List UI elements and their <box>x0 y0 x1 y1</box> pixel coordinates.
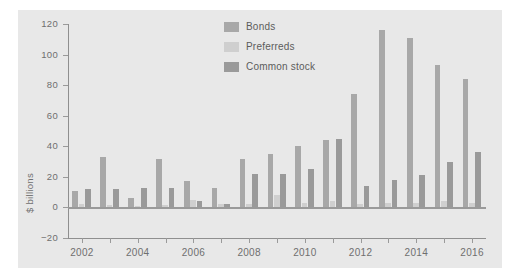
bar-common-stock-2012 <box>364 186 370 207</box>
x-axis-tick <box>305 238 306 243</box>
chart-panel: $ billions −20020406080100120 2002200420… <box>18 10 502 268</box>
x-axis-tick <box>361 238 362 243</box>
y-axis-tick-label: 100 <box>18 49 58 60</box>
legend-item-common-stock[interactable]: Common stock <box>224 58 315 75</box>
bar-common-stock-2006 <box>197 201 203 207</box>
bar-bonds-2012 <box>351 94 357 207</box>
legend-swatch-bonds <box>224 22 239 32</box>
legend-item-label: Bonds <box>246 21 275 32</box>
bar-bonds-2011 <box>323 140 329 207</box>
x-axis-tick <box>333 238 334 243</box>
bar-common-stock-2016 <box>475 152 481 207</box>
chart-legend: BondsPreferredsCommon stock <box>224 18 315 78</box>
bar-preferreds-2005 <box>162 205 168 207</box>
x-axis-tick-label: 2012 <box>349 247 372 258</box>
y-axis-tick-label: 60 <box>18 110 58 121</box>
legend-item-preferreds[interactable]: Preferreds <box>224 38 315 55</box>
legend-swatch-preferreds <box>224 42 239 52</box>
bar-bonds-2009 <box>268 154 274 208</box>
zero-baseline <box>68 207 486 209</box>
bar-common-stock-2015 <box>447 162 453 208</box>
x-axis-tick <box>166 238 167 243</box>
legend-swatch-common-stock <box>224 62 239 72</box>
bar-common-stock-2004 <box>141 188 147 208</box>
bar-bonds-2004 <box>128 198 134 207</box>
y-axis-tick-label: −20 <box>18 232 58 243</box>
y-axis-tick-label: 80 <box>18 79 58 90</box>
legend-item-label: Preferreds <box>246 41 295 52</box>
x-axis-tick <box>110 238 111 243</box>
bar-bonds-2008 <box>240 159 246 208</box>
y-axis-tick-label: 20 <box>18 171 58 182</box>
x-axis-tick <box>138 238 139 243</box>
y-axis-tick-label: 0 <box>18 201 58 212</box>
bar-bonds-2005 <box>156 159 162 208</box>
x-axis-tick <box>388 238 389 243</box>
x-axis-tick <box>221 238 222 243</box>
x-axis-tick-label: 2014 <box>405 247 428 258</box>
x-axis-tick <box>82 238 83 243</box>
bar-common-stock-2013 <box>392 180 398 208</box>
bar-common-stock-2008 <box>252 174 258 208</box>
bar-preferreds-2016 <box>469 203 475 208</box>
x-axis-tick <box>277 238 278 243</box>
bar-preferreds-2015 <box>441 201 447 207</box>
bar-preferreds-2010 <box>302 203 308 208</box>
legend-item-bonds[interactable]: Bonds <box>224 18 315 35</box>
bar-bonds-2013 <box>379 30 385 207</box>
bar-common-stock-2011 <box>336 139 342 208</box>
bar-common-stock-2014 <box>419 175 425 207</box>
bar-preferreds-2011 <box>330 201 336 207</box>
bar-preferreds-2003 <box>107 205 113 207</box>
bar-preferreds-2007 <box>218 204 224 207</box>
x-axis-tick-label: 2006 <box>182 247 205 258</box>
bar-preferreds-2004 <box>135 206 141 208</box>
bar-preferreds-2013 <box>385 203 391 208</box>
bar-bonds-2015 <box>435 65 441 207</box>
bar-common-stock-2005 <box>169 188 175 208</box>
bar-bonds-2016 <box>463 79 469 207</box>
bar-preferreds-2002 <box>79 204 85 207</box>
bar-bonds-2010 <box>295 146 301 207</box>
x-axis-tick-label: 2004 <box>126 247 149 258</box>
bar-common-stock-2010 <box>308 169 314 207</box>
bar-preferreds-2009 <box>274 195 280 207</box>
chart-figure: $ billions −20020406080100120 2002200420… <box>0 0 520 280</box>
x-axis-tick <box>472 238 473 243</box>
y-axis-tick-label: 120 <box>18 18 58 29</box>
x-axis-tick-label: 2016 <box>460 247 483 258</box>
x-axis-tick-label: 2010 <box>293 247 316 258</box>
bar-common-stock-2009 <box>280 174 286 208</box>
bar-bonds-2002 <box>72 191 78 208</box>
x-axis-tick <box>249 238 250 243</box>
bar-bonds-2006 <box>184 181 190 207</box>
bar-preferreds-2012 <box>357 204 363 207</box>
x-axis-tick-label: 2002 <box>70 247 93 258</box>
bar-bonds-2003 <box>100 157 106 207</box>
bar-common-stock-2003 <box>113 189 119 207</box>
x-axis-tick-label: 2008 <box>237 247 260 258</box>
x-axis-tick <box>444 238 445 243</box>
x-axis-tick <box>416 238 417 243</box>
y-axis-tick-label: 40 <box>18 140 58 151</box>
bar-common-stock-2007 <box>224 204 230 207</box>
bar-preferreds-2008 <box>246 204 252 207</box>
bar-bonds-2014 <box>407 38 413 208</box>
bar-preferreds-2014 <box>413 203 419 208</box>
bar-bonds-2007 <box>212 188 218 208</box>
x-axis-tick <box>193 238 194 243</box>
bar-preferreds-2006 <box>190 200 196 208</box>
bar-common-stock-2002 <box>85 189 91 207</box>
legend-item-label: Common stock <box>246 61 315 72</box>
